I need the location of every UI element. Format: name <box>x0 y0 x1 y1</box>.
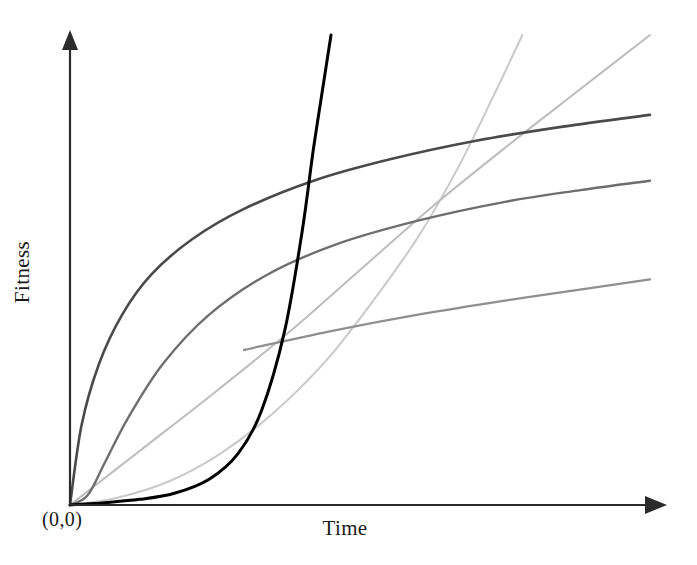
series-curve-slow-saturating-logarithmic <box>70 181 650 505</box>
curves-layer <box>70 35 650 505</box>
series-curve-mid-gray-linear-right <box>244 279 650 350</box>
x-axis-arrowhead <box>645 496 667 514</box>
chart-canvas <box>0 0 697 565</box>
y-axis-arrowhead <box>62 30 78 50</box>
series-curve-fast-saturating-logarithmic <box>70 115 650 505</box>
x-axis-label: Time <box>322 516 367 541</box>
fitness-vs-time-figure: Fitness Time (0,0) <box>0 0 697 565</box>
series-curve-exponential <box>70 35 331 505</box>
origin-label: (0,0) <box>42 508 82 531</box>
y-axis-label: Fitness <box>10 241 35 303</box>
